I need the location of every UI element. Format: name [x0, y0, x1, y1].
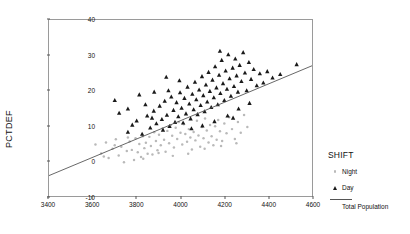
data-point — [173, 146, 175, 148]
data-point — [232, 84, 236, 88]
legend-label-day: Day — [342, 184, 354, 191]
data-point — [204, 82, 208, 86]
scatter-plot-figure: PCTDEF -10010203040340036003800400042004… — [0, 0, 410, 234]
y-tick-mark — [47, 161, 50, 162]
data-point — [117, 154, 119, 156]
legend-label-total-population: Total Population — [342, 203, 410, 210]
data-point — [252, 67, 256, 71]
data-point — [189, 136, 191, 138]
data-point — [155, 140, 157, 142]
legend-item-day[interactable]: Day — [328, 183, 410, 192]
data-point — [166, 130, 168, 132]
data-point — [245, 88, 249, 92]
data-point — [210, 78, 214, 82]
data-point — [247, 60, 251, 64]
x-tick-label: 4400 — [262, 201, 276, 208]
day-marker-icon — [328, 186, 342, 190]
x-tick-mark — [48, 196, 49, 199]
data-point — [150, 145, 152, 147]
data-point — [164, 75, 168, 79]
data-point — [217, 119, 219, 121]
legend-item-night[interactable]: Night — [328, 167, 410, 176]
x-tick-label: 3800 — [129, 201, 143, 208]
x-tick-mark — [136, 196, 137, 199]
data-point — [212, 95, 216, 99]
data-point — [234, 138, 236, 140]
data-point — [218, 91, 222, 95]
data-point — [126, 106, 130, 110]
data-point — [137, 92, 141, 96]
y-tick-mark — [47, 19, 50, 20]
data-point — [145, 142, 147, 144]
x-tick-label: 3600 — [85, 201, 99, 208]
data-point — [214, 85, 218, 89]
data-point — [140, 132, 144, 136]
data-point — [131, 149, 133, 151]
y-tick-label: 0 — [91, 158, 95, 165]
data-point — [229, 94, 233, 98]
x-tick-label: 4600 — [306, 201, 320, 208]
data-point — [176, 114, 180, 118]
data-point — [200, 74, 204, 78]
data-point — [191, 148, 193, 150]
data-point — [191, 107, 195, 111]
data-point — [243, 114, 245, 116]
series-day — [113, 49, 299, 136]
data-point — [249, 77, 253, 81]
data-point — [157, 152, 159, 154]
data-point — [215, 138, 217, 140]
data-point — [200, 123, 204, 127]
data-point — [176, 138, 178, 140]
data-point — [223, 122, 225, 124]
data-point — [163, 138, 165, 140]
data-point — [114, 144, 116, 146]
data-point — [294, 62, 298, 66]
data-point — [143, 147, 145, 149]
data-point — [94, 143, 96, 145]
data-point — [174, 100, 178, 104]
data-point — [220, 145, 222, 147]
data-point — [243, 71, 247, 75]
data-point — [158, 104, 162, 108]
data-point — [197, 87, 201, 91]
data-point — [227, 76, 231, 80]
data-point — [171, 108, 175, 112]
data-point — [212, 144, 214, 146]
x-tick-mark — [180, 196, 181, 199]
data-point — [225, 113, 229, 117]
data-point — [194, 97, 198, 101]
data-point — [142, 157, 144, 159]
data-point — [261, 80, 265, 84]
data-point — [270, 75, 274, 79]
data-point — [143, 102, 147, 106]
legend-item-total-population[interactable]: Total Population — [328, 199, 410, 210]
y-tick-mark — [47, 90, 50, 91]
data-point — [156, 149, 158, 151]
fit-line-icon — [330, 199, 352, 200]
data-point — [148, 136, 150, 138]
data-point — [193, 80, 197, 84]
data-point — [187, 102, 191, 106]
data-point — [226, 52, 230, 56]
data-point — [164, 150, 166, 152]
legend-title: SHIFT — [328, 150, 410, 160]
data-point — [238, 63, 242, 67]
data-point — [152, 90, 156, 94]
data-point — [190, 92, 194, 96]
data-point — [240, 131, 242, 133]
data-point — [126, 130, 130, 134]
data-point — [234, 73, 238, 77]
data-point — [171, 135, 173, 137]
data-point — [115, 138, 117, 140]
data-point — [181, 143, 183, 145]
data-point — [178, 90, 182, 94]
data-point — [225, 87, 229, 91]
data-point — [237, 121, 239, 123]
data-point — [217, 73, 221, 77]
data-point — [185, 85, 189, 89]
plot-area — [48, 19, 313, 197]
x-tick-mark — [313, 196, 314, 199]
x-tick-mark — [268, 196, 269, 199]
data-point — [146, 153, 148, 155]
data-point — [184, 133, 186, 135]
